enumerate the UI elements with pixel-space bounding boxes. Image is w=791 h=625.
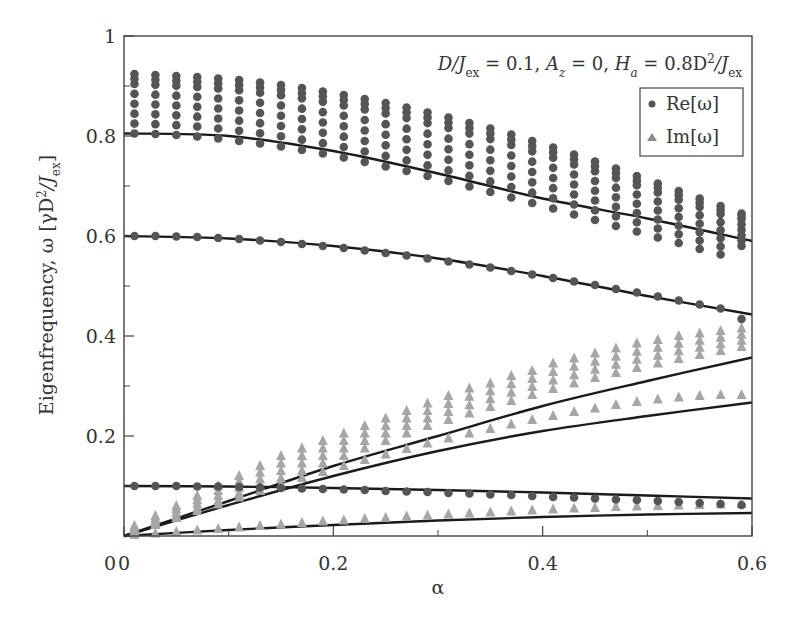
re-point	[298, 115, 307, 124]
re-point	[256, 139, 265, 148]
re-point	[298, 104, 307, 113]
re-point	[716, 218, 725, 227]
re-point	[340, 122, 349, 131]
re-point	[151, 90, 160, 99]
im-point	[569, 503, 579, 513]
re-point	[340, 96, 349, 105]
re-point	[235, 106, 244, 115]
re-point	[319, 92, 328, 101]
y-tick-label: 0.8	[86, 125, 116, 147]
re-point	[633, 288, 642, 297]
re-point	[130, 99, 139, 108]
re-point	[172, 76, 181, 85]
im-point	[485, 423, 495, 433]
re-point	[235, 127, 244, 136]
im-point	[464, 383, 474, 393]
re-point	[360, 100, 369, 109]
re-point	[319, 118, 328, 127]
re-point	[256, 129, 265, 138]
re-point	[256, 119, 265, 128]
re-point	[256, 83, 265, 92]
re-point	[151, 130, 160, 139]
re-point	[235, 235, 244, 244]
re-point	[549, 164, 558, 173]
im-point	[464, 508, 474, 518]
re-point	[528, 142, 537, 151]
im-point	[255, 460, 265, 470]
re-point	[193, 93, 202, 102]
re-point	[465, 172, 474, 181]
re-point	[444, 166, 453, 175]
re-point	[716, 226, 725, 235]
re-point	[507, 267, 516, 276]
im-point	[569, 406, 579, 416]
re-point	[444, 134, 453, 143]
re-point	[716, 500, 725, 509]
im-point	[276, 519, 286, 529]
re-point	[674, 498, 683, 507]
re-point	[381, 120, 390, 129]
x-tick-label: 0.2	[318, 552, 348, 574]
im-point	[423, 510, 433, 520]
re-point	[402, 487, 411, 496]
re-point	[235, 137, 244, 146]
re-point	[172, 131, 181, 140]
re-point	[444, 257, 453, 266]
im-point	[548, 358, 558, 368]
re-point	[298, 146, 307, 155]
re-point	[486, 188, 495, 197]
im-point	[632, 396, 642, 406]
im-point	[506, 419, 516, 429]
re-point	[654, 233, 663, 242]
re-point	[507, 151, 516, 160]
re-point	[716, 234, 725, 243]
re-point	[130, 90, 139, 99]
y-tick-label: 0.2	[86, 425, 116, 447]
eigenfrequency-chart: 00.20.40.600.20.40.60.81 α Eigenfrequenc…	[0, 0, 791, 625]
re-point	[465, 150, 474, 159]
re-point	[193, 102, 202, 111]
re-point	[507, 183, 516, 192]
re-point	[360, 486, 369, 495]
im-point	[297, 517, 307, 527]
re-point	[402, 156, 411, 165]
re-point	[507, 172, 516, 181]
re-point	[570, 200, 579, 209]
re-point	[423, 161, 432, 170]
re-point	[214, 234, 223, 243]
re-point	[486, 156, 495, 165]
re-point	[360, 147, 369, 156]
re-point	[130, 482, 139, 491]
im-point	[339, 428, 349, 438]
re-point	[214, 482, 223, 491]
re-point	[193, 233, 202, 242]
re-point	[486, 490, 495, 499]
re-point	[716, 206, 725, 215]
re-point	[612, 203, 621, 212]
re-point	[444, 145, 453, 154]
re-point	[423, 113, 432, 122]
re-point	[402, 135, 411, 144]
im-point	[297, 443, 307, 453]
re-point	[319, 139, 328, 148]
re-point	[633, 209, 642, 218]
im-point	[423, 398, 433, 408]
re-point	[528, 168, 537, 177]
re-point	[654, 215, 663, 224]
re-point	[277, 132, 286, 141]
im-point	[527, 365, 537, 375]
im-point	[590, 502, 600, 512]
re-point	[486, 177, 495, 186]
re-point	[507, 162, 516, 171]
re-point	[360, 126, 369, 135]
re-point	[633, 218, 642, 227]
re-point	[612, 495, 621, 504]
im-point	[527, 505, 537, 515]
re-point	[695, 228, 704, 237]
re-point	[591, 281, 600, 290]
re-point	[486, 145, 495, 154]
re-point	[528, 188, 537, 197]
re-point	[277, 111, 286, 120]
re-point	[277, 142, 286, 151]
re-point	[654, 206, 663, 215]
